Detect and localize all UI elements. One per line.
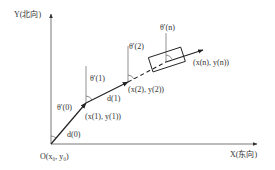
pn-label: (x(n), y(n)) (193, 58, 229, 67)
angle-arc-n (166, 55, 172, 59)
origin-label: O(x₀, y₀) (40, 152, 69, 161)
y-axis-label: Y(北向) (14, 9, 41, 19)
thetan-label: θ′(n) (160, 23, 175, 32)
dead-reckoning-diagram: Y(北向) X(东向) O(x₀, y₀) θ′(0) θ′(1) θ′(2) … (0, 0, 275, 170)
angle-arc-0 (51, 136, 56, 138)
p2-label: (x(2), y(2)) (128, 85, 164, 94)
angle-arc-1 (86, 96, 92, 100)
d1-label: d(1) (107, 94, 121, 103)
theta1-label: θ′(1) (90, 74, 105, 83)
theta0-label: θ′(0) (57, 103, 72, 112)
theta2-label: θ′(2) (129, 42, 144, 51)
angle-arc-2 (128, 75, 134, 79)
p1-label: (x(1), y(1)) (85, 112, 121, 121)
x-axis-label: X(东向) (230, 149, 257, 159)
d0-label: d(0) (67, 130, 81, 139)
